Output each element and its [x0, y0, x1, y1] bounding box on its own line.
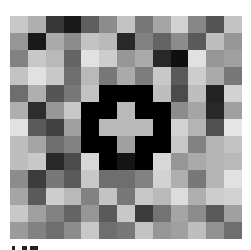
grid-cell [46, 205, 64, 222]
clipped-caption-fragment [12, 243, 72, 250]
grid-cell [224, 188, 242, 205]
grid-cell [153, 170, 171, 187]
symbol-cell [99, 119, 117, 136]
grid-cell [117, 67, 135, 84]
grid-cell [117, 33, 135, 50]
grid-cell [188, 50, 206, 67]
grid-cell [64, 67, 82, 84]
octagon-ring-cell [153, 136, 171, 153]
grid-cell [153, 16, 171, 33]
grid-cell [117, 170, 135, 187]
grid-cell [64, 33, 82, 50]
grid-cell [28, 85, 46, 102]
grid-cell [46, 102, 64, 119]
grid-cell [46, 170, 64, 187]
grid-cell [188, 205, 206, 222]
grid-cell [46, 67, 64, 84]
grid-cell [64, 188, 82, 205]
grid-cell [171, 153, 189, 170]
grid-cell [206, 50, 224, 67]
grid-cell [28, 153, 46, 170]
grid-cell [10, 50, 28, 67]
grid-cell [153, 188, 171, 205]
grid-cell [206, 33, 224, 50]
octagon-ring-cell [81, 119, 99, 136]
grid-cell [171, 85, 189, 102]
grid-cell [206, 67, 224, 84]
grid-cell [188, 170, 206, 187]
grid-cell [46, 153, 64, 170]
symbol-cell [117, 119, 135, 136]
grid-cell [135, 170, 153, 187]
grid-cell [64, 50, 82, 67]
grid-cell [188, 16, 206, 33]
grid-cell [28, 205, 46, 222]
grid-cell [188, 119, 206, 136]
grid-cell [224, 16, 242, 33]
grid-cell [224, 119, 242, 136]
grid-cell [224, 205, 242, 222]
grid-cell [135, 33, 153, 50]
grid-cell [206, 16, 224, 33]
grid-cell [171, 188, 189, 205]
grid-cell [46, 50, 64, 67]
grid-cell [46, 16, 64, 33]
symbol-cell [153, 85, 171, 102]
grid-cell [188, 85, 206, 102]
grid-cell [10, 170, 28, 187]
grid-cell [206, 85, 224, 102]
grid-cell [81, 33, 99, 50]
symbol-cell [153, 153, 171, 170]
grid-cell [188, 222, 206, 239]
grid-cell [171, 50, 189, 67]
grid-cell [10, 102, 28, 119]
grid-cell [99, 222, 117, 239]
grid-cell [188, 188, 206, 205]
grid-cell [153, 50, 171, 67]
octagon-ring-cell [135, 85, 153, 102]
grid-cell [46, 188, 64, 205]
grid-cell [224, 170, 242, 187]
grid-cell [117, 50, 135, 67]
grid-cell [10, 222, 28, 239]
grid-cell [171, 67, 189, 84]
grid-cell [188, 33, 206, 50]
octagon-ring-cell [99, 136, 117, 153]
grid-cell [188, 136, 206, 153]
glyph-fragment [22, 246, 27, 250]
octagon-ring-cell [153, 102, 171, 119]
grid-cell [206, 170, 224, 187]
grid-cell [171, 136, 189, 153]
grid-cell [206, 188, 224, 205]
grid-cell [99, 33, 117, 50]
octagon-ring-cell [81, 136, 99, 153]
octagon-ring-cell [135, 153, 153, 170]
grid-cell [99, 188, 117, 205]
grid-cell [99, 16, 117, 33]
symbol-cell [81, 85, 99, 102]
grid-cell [64, 222, 82, 239]
grid-cell [117, 188, 135, 205]
grid-cell [206, 153, 224, 170]
glyph-fragment [12, 246, 15, 250]
symbol-cell [117, 136, 135, 153]
grid-cell [171, 205, 189, 222]
grid-cell [224, 102, 242, 119]
grid-cell [10, 119, 28, 136]
grid-cell [28, 170, 46, 187]
grid-cell [188, 102, 206, 119]
grid-cell [28, 222, 46, 239]
grid-cell [171, 170, 189, 187]
grid-cell [28, 136, 46, 153]
octagon-ring-cell [99, 85, 117, 102]
grid-cell [171, 16, 189, 33]
grid-cell [99, 67, 117, 84]
grid-cell [64, 85, 82, 102]
symbol-cell [117, 102, 135, 119]
grid-cell [28, 188, 46, 205]
grid-cell [99, 205, 117, 222]
symbol-cell [81, 153, 99, 170]
grid-cell [206, 136, 224, 153]
grid-cell [81, 222, 99, 239]
grid-cell [10, 153, 28, 170]
